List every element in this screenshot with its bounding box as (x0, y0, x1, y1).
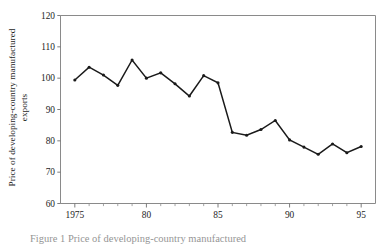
data-point (188, 94, 191, 97)
y-tick-label: 110 (41, 42, 55, 52)
y-tick-label: 120 (41, 11, 55, 21)
y-tick-label: 70 (46, 167, 56, 177)
x-tick-labels: 197580859095 (65, 210, 366, 220)
figure-caption: Figure 1 Price of developing-country man… (30, 233, 383, 244)
y-tick-labels: 60708090100110120 (41, 11, 55, 209)
data-point (345, 151, 348, 154)
data-point (288, 138, 291, 141)
data-points (73, 58, 362, 155)
data-point (331, 142, 334, 145)
data-point (116, 84, 119, 87)
data-point (360, 145, 363, 148)
line-chart-plot: 60708090100110120 197580859095 (0, 0, 383, 232)
x-tick-label: 85 (213, 210, 223, 220)
data-point (302, 146, 305, 149)
data-point (159, 71, 162, 74)
data-point (88, 66, 91, 69)
x-tick-label: 90 (285, 210, 295, 220)
data-series (75, 60, 361, 154)
data-point (245, 134, 248, 137)
x-tick-label: 95 (356, 210, 366, 220)
data-point (131, 58, 134, 61)
data-point (202, 74, 205, 77)
y-tick-label: 60 (46, 199, 56, 209)
y-tick-label: 90 (46, 105, 56, 115)
data-point (317, 153, 320, 156)
data-point (73, 79, 76, 82)
y-tick-label: 80 (46, 136, 56, 146)
x-tick-label: 1975 (65, 210, 84, 220)
x-tick-label: 80 (142, 210, 152, 220)
axes (61, 16, 376, 204)
data-point (231, 131, 234, 134)
y-tick-label: 100 (41, 73, 55, 83)
figure-container: Price of developing-country manufactured… (0, 0, 383, 244)
tick-marks (57, 16, 361, 208)
data-point (259, 128, 262, 131)
data-point (102, 73, 105, 76)
data-point (174, 82, 177, 85)
data-point (216, 81, 219, 84)
data-point (274, 119, 277, 122)
data-point (145, 77, 148, 80)
